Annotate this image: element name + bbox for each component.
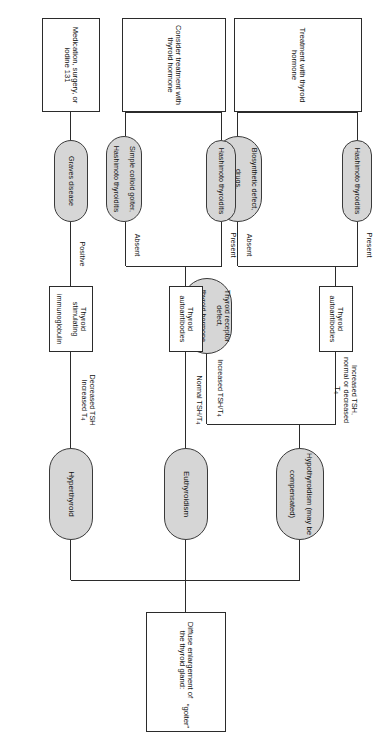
edge-label-hypo-labs-line1: Increased TSH,: [350, 365, 359, 415]
node-eu-colloid[interactable]: Simple colloid goiter, Hashimoto thyroid…: [106, 136, 142, 222]
node-hypo-receptor-defect-line1: Thyroid receptor defect,: [215, 282, 231, 350]
node-hypo-treatment-label: Treatment with thyroid hormone: [290, 22, 307, 108]
node-hypo-autoantibodies-label: Thyroid autoantibodies: [328, 290, 344, 348]
edge-eu-absent: [125, 222, 126, 266]
node-hypothyroidism-line1: Hypothyroidism (may be: [304, 453, 313, 535]
edge-hypo-ab-out: [335, 266, 336, 286]
node-hyperthyroid[interactable]: Hyperthyroid: [49, 448, 93, 540]
edge-eu-merge-a: [221, 112, 222, 140]
node-hypo-hashimoto[interactable]: Hashimoto thyroiditis: [342, 140, 372, 222]
edge-label-hyper-labs: Decreased TSH Increased T4: [79, 360, 96, 440]
node-hypothyroidism[interactable]: Hypothyroidism (may be compensated): [276, 448, 324, 540]
node-eu-hashimoto[interactable]: Hashimoto thyroiditis: [206, 140, 236, 222]
node-euthyroidism-label: Euthyroidism: [182, 471, 191, 517]
edge-label-hypo-absent: Absent: [245, 224, 253, 266]
node-eu-treatment[interactable]: Consider treatment with thyroid hormone: [122, 18, 226, 112]
edge-eu-present: [221, 222, 222, 266]
node-hyper-graves-label: Graves disease: [67, 156, 75, 206]
edge-root-spine: [71, 580, 300, 581]
edge-label-eu-present: Present: [229, 224, 237, 266]
edge-hypo-merge-spine: [238, 112, 358, 113]
node-root-line1: Diffuse enlargement of the thyroid gland…: [178, 616, 195, 704]
edge-eu-out: [185, 352, 186, 448]
edge-eu-ab-out: [185, 266, 186, 286]
node-hypo-treatment[interactable]: Treatment with thyroid hormone: [234, 18, 362, 112]
edge-hypo-ab-fan: [238, 266, 358, 267]
edge-label-hypo-labs: Increased TSH, normal or decreased T4: [333, 356, 358, 424]
edge-hypo-fan: [207, 424, 336, 425]
node-eu-colloid-line1: Simple colloid goiter,: [128, 146, 136, 213]
edge-eu-merge-b: [125, 112, 126, 136]
node-root-line2: “goiter”: [182, 704, 191, 728]
edge-spine-to-euthyroidism: [185, 540, 186, 580]
node-hyper-treatment-label: Medication, surgery, or iodine 131: [63, 22, 80, 108]
node-hypothyroidism-line2: compensated): [287, 453, 296, 535]
edge-hypo-merge-a: [357, 112, 358, 140]
edge-label-eu-absent: Absent: [133, 224, 141, 266]
node-eu-hashimoto-label: Hashimoto thyroiditis: [217, 148, 225, 215]
node-eu-treatment-label: Consider treatment with thyroid hormone: [166, 22, 183, 108]
edge-spine-to-hypothyroidism: [299, 540, 300, 580]
edge-label-eu-labs: Normal TSH/T4: [194, 360, 203, 440]
edge-label-eu-labs-sub: 4: [195, 421, 201, 424]
node-hyper-tsi[interactable]: Thyroid stimulating immunoglobulin: [49, 286, 93, 352]
edge-hypo-lab-b: [206, 352, 207, 424]
edge-label-hyper-labs-sub: 4: [79, 417, 85, 420]
node-eu-autoantibodies[interactable]: Thyroid autoantibodies: [169, 286, 203, 352]
edge-hypo-merge-b: [237, 112, 238, 136]
edge-label-hypo-present: Present: [365, 224, 373, 266]
node-hypo-hashimoto-label: Hashimoto thyroiditis: [353, 148, 361, 215]
edge-hyper-to-treatment: [70, 112, 71, 140]
edge-root-stub: [185, 580, 186, 612]
edge-hyper-out: [70, 352, 71, 448]
edge-hypo-out: [299, 424, 300, 448]
node-hyper-treatment[interactable]: Medication, surgery, or iodine 131: [42, 18, 100, 112]
edge-label-hyper-labs-line1: Decreased TSH: [88, 374, 97, 425]
node-hypo-biosynthetic-line1: Biosynthetic defect,: [250, 146, 258, 213]
edge-spine-to-hyperthyroid: [70, 540, 71, 580]
node-eu-autoantibodies-label: Thyroid autoantibodies: [178, 290, 194, 348]
node-euthyroidism[interactable]: Euthyroidism: [164, 448, 208, 540]
edge-label-hypo-resistance-sub: 4: [216, 414, 222, 417]
edge-label-hypo-resistance: Increased TSH/T4: [215, 352, 224, 424]
figure-frame: Figure 10-10 Approach to the patient wit…: [0, 0, 374, 747]
edge-label-eu-labs-text: Normal TSH/T: [195, 376, 204, 422]
edge-label-hyper-positive: Positive: [78, 226, 86, 282]
edge-eu-ab-fan: [126, 266, 222, 267]
edge-label-hypo-resistance-text: Increased TSH/T: [216, 359, 225, 413]
edge-label-hyper-labs-line2: Increased T: [80, 380, 89, 418]
flowchart-stage: Diffuse enlargement of the thyroid gland…: [0, 0, 374, 747]
node-hyperthyroid-label: Hyperthyroid: [67, 471, 76, 516]
edge-eu-merge-spine: [126, 112, 222, 113]
node-root[interactable]: Diffuse enlargement of the thyroid gland…: [146, 612, 226, 732]
edge-hypo-present: [357, 222, 358, 266]
node-eu-colloid-line2: Hashimoto thyroiditis: [112, 146, 120, 213]
node-hyper-tsi-line2: immunoglobulin: [55, 290, 63, 348]
edge-label-hypo-labs-sub: 4: [333, 391, 339, 394]
edge-hyper-positive: [70, 222, 71, 286]
node-hypo-autoantibodies[interactable]: Thyroid autoantibodies: [319, 286, 353, 352]
node-hyper-tsi-line1: Thyroid stimulating: [71, 290, 87, 348]
node-hyper-graves[interactable]: Graves disease: [54, 140, 88, 222]
